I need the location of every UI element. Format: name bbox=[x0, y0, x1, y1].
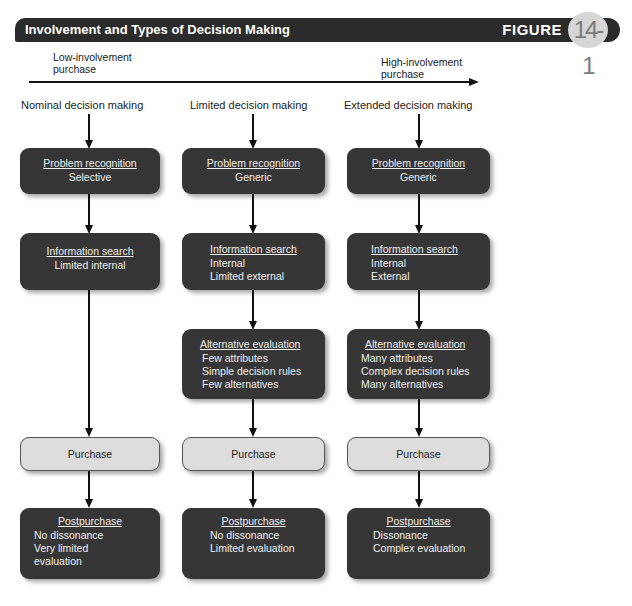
limited-problem-recognition-box: Problem recognition Generic bbox=[182, 148, 325, 194]
box-line: Simple decision rules bbox=[202, 365, 325, 378]
box-line: Few attributes bbox=[202, 352, 325, 365]
nominal-problem-recognition-box: Problem recognition Selective bbox=[20, 148, 160, 194]
box-line: Limited evaluation bbox=[210, 542, 325, 555]
connector-line bbox=[418, 399, 420, 430]
connector-line bbox=[88, 471, 90, 501]
low-involvement-label: Low-involvement purchase bbox=[53, 51, 132, 75]
arrow-down-icon bbox=[85, 499, 93, 508]
connector-line bbox=[252, 194, 254, 227]
box-line: Many alternatives bbox=[361, 378, 490, 391]
box-line: External bbox=[371, 270, 490, 283]
extended-problem-recognition-box: Problem recognition Generic bbox=[347, 148, 490, 194]
connector-line bbox=[252, 290, 254, 323]
box-line: Limited external bbox=[210, 270, 325, 283]
box-line: Complex evaluation bbox=[373, 542, 490, 555]
high-involvement-label-line1: High-involvement bbox=[381, 56, 462, 68]
high-involvement-label-line2: purchase bbox=[381, 68, 462, 80]
extended-information-search-box: Information search Internal External bbox=[347, 233, 490, 290]
box-title: Problem recognition bbox=[347, 157, 490, 170]
box-line: Few alternatives bbox=[202, 378, 325, 391]
connector-line bbox=[252, 114, 254, 142]
connector-line bbox=[88, 194, 90, 227]
connector-line bbox=[88, 114, 90, 142]
box-title: Postpurchase bbox=[20, 515, 160, 528]
connector-line bbox=[418, 290, 420, 323]
box-title: Purchase bbox=[21, 448, 159, 461]
box-title: Postpurchase bbox=[347, 515, 490, 528]
arrow-down-icon bbox=[415, 499, 423, 508]
extended-postpurchase-box: Postpurchase Dissonance Complex evaluati… bbox=[347, 508, 490, 579]
figure-number-badge: 14-1 bbox=[568, 12, 608, 48]
extended-purchase-box: Purchase bbox=[347, 437, 490, 471]
box-line: Internal bbox=[210, 257, 325, 270]
nominal-postpurchase-box: Postpurchase No dissonance Very limited … bbox=[20, 508, 160, 579]
column-title-extended: Extended decision making bbox=[344, 99, 472, 111]
connector-line bbox=[418, 471, 420, 501]
arrow-down-icon bbox=[249, 499, 257, 508]
low-involvement-label-line2: purchase bbox=[53, 63, 132, 75]
column-title-limited: Limited decision making bbox=[190, 99, 307, 111]
limited-postpurchase-box: Postpurchase No dissonance Limited evalu… bbox=[182, 508, 325, 579]
box-line: evaluation bbox=[34, 555, 160, 568]
box-title: Information search bbox=[371, 243, 490, 256]
box-line: Selective bbox=[20, 171, 160, 184]
box-line: Very limited bbox=[34, 542, 160, 555]
arrow-down-icon bbox=[85, 428, 93, 437]
box-line: No dissonance bbox=[34, 529, 160, 542]
box-title: Purchase bbox=[348, 448, 489, 461]
box-line: No dissonance bbox=[210, 529, 325, 542]
nominal-purchase-box: Purchase bbox=[20, 437, 160, 471]
limited-information-search-box: Information search Internal Limited exte… bbox=[182, 233, 325, 290]
box-title: Information search bbox=[20, 245, 160, 258]
connector-line bbox=[252, 471, 254, 501]
box-line: Many attributes bbox=[361, 352, 490, 365]
involvement-axis-line bbox=[29, 81, 471, 83]
box-title: Information search bbox=[210, 243, 325, 256]
nominal-information-search-box: Information search Limited internal bbox=[20, 233, 160, 290]
box-title: Alternative evaluation bbox=[365, 338, 490, 351]
figure-label: FIGURE bbox=[502, 21, 562, 38]
connector-line bbox=[88, 290, 90, 430]
box-line: Generic bbox=[182, 171, 325, 184]
column-title-nominal: Nominal decision making bbox=[21, 99, 143, 111]
limited-alternative-evaluation-box: Alternative evaluation Few attributes Si… bbox=[182, 329, 325, 399]
high-involvement-label: High-involvement purchase bbox=[381, 56, 462, 80]
box-title: Alternative evaluation bbox=[200, 338, 325, 351]
connector-line bbox=[418, 194, 420, 227]
figure-header: Involvement and Types of Decision Making… bbox=[15, 18, 620, 42]
figure-title: Involvement and Types of Decision Making bbox=[25, 22, 290, 37]
box-title: Problem recognition bbox=[20, 157, 160, 170]
arrow-down-icon bbox=[415, 428, 423, 437]
box-line: Internal bbox=[371, 257, 490, 270]
box-title: Purchase bbox=[183, 448, 324, 461]
box-line: Complex decision rules bbox=[361, 365, 490, 378]
limited-purchase-box: Purchase bbox=[182, 437, 325, 471]
box-title: Postpurchase bbox=[182, 515, 325, 528]
box-title: Problem recognition bbox=[182, 157, 325, 170]
arrow-down-icon bbox=[249, 428, 257, 437]
involvement-axis-arrowhead-icon bbox=[469, 78, 479, 86]
low-involvement-label-line1: Low-involvement bbox=[53, 51, 132, 63]
box-line: Dissonance bbox=[373, 529, 490, 542]
connector-line bbox=[252, 399, 254, 430]
connector-line bbox=[418, 114, 420, 142]
box-line: Limited internal bbox=[20, 259, 160, 272]
extended-alternative-evaluation-box: Alternative evaluation Many attributes C… bbox=[347, 329, 490, 399]
box-line: Generic bbox=[347, 171, 490, 184]
